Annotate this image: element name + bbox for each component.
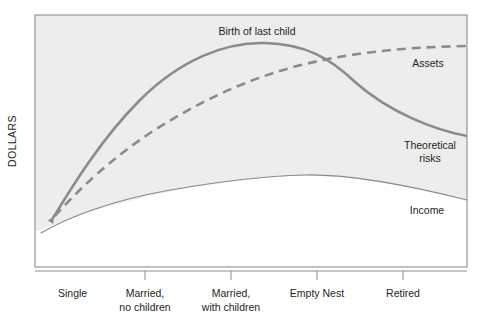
xtick-label-married-with-children-line1: Married, xyxy=(212,287,251,299)
lifecycle-financial-chart: DOLLARS Single Married, no children Marr… xyxy=(0,0,487,334)
chart-page: DOLLARS Single Married, no children Marr… xyxy=(0,0,487,334)
y-axis-label: DOLLARS xyxy=(6,115,18,167)
xtick-label-married-no-children-line1: Married, xyxy=(126,287,165,299)
xtick-label-retired: Retired xyxy=(386,287,420,299)
annotation-theoretical-risks-line1: Theoretical xyxy=(404,139,456,151)
annotation-assets: Assets xyxy=(412,57,444,69)
xtick-label-single: Single xyxy=(58,287,87,299)
xtick-label-married-no-children-line2: no children xyxy=(119,301,171,313)
annotation-birth-of-last-child: Birth of last child xyxy=(218,25,295,37)
annotation-theoretical-risks-line2: risks xyxy=(419,152,441,164)
xtick-label-married-with-children-line2: with children xyxy=(201,301,261,313)
annotation-income: Income xyxy=(410,204,445,216)
xtick-label-empty-nest: Empty Nest xyxy=(290,287,344,299)
